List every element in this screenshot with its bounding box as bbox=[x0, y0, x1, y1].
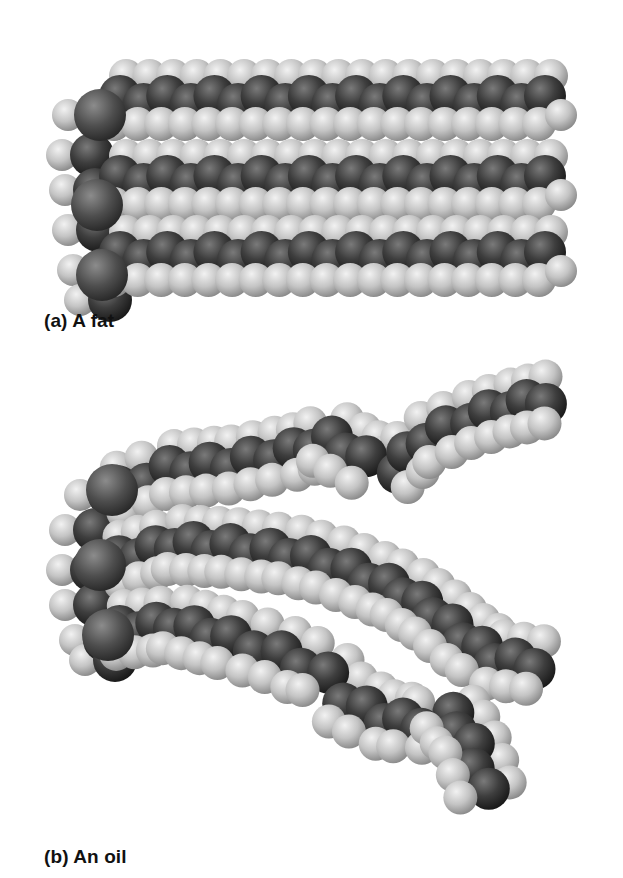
hydrogen-atom bbox=[545, 99, 577, 131]
oxygen-atom bbox=[82, 609, 134, 661]
oxygen-atom bbox=[71, 179, 123, 231]
oxygen-atom bbox=[74, 539, 126, 591]
oxygen-atom bbox=[76, 249, 128, 301]
oxygen-atom bbox=[86, 464, 138, 516]
hydrogen-atom bbox=[286, 673, 320, 707]
hydrogen-atom bbox=[443, 781, 477, 815]
hydrogen-atom bbox=[509, 672, 543, 706]
oxygen-atom bbox=[74, 89, 126, 141]
hydrogen-atom bbox=[545, 179, 577, 211]
hydrogen-atom bbox=[527, 406, 561, 440]
hydrogen-atom bbox=[335, 466, 369, 500]
panel-oil: (b) An oil bbox=[0, 340, 623, 878]
caption-oil: (b) An oil bbox=[44, 846, 127, 868]
hydrogen-atom bbox=[545, 255, 577, 287]
fat-molecule-model bbox=[0, 0, 623, 340]
oil-molecule-model bbox=[0, 340, 623, 878]
panel-fat: (a) A fat bbox=[0, 0, 623, 340]
caption-fat: (a) A fat bbox=[44, 310, 114, 332]
